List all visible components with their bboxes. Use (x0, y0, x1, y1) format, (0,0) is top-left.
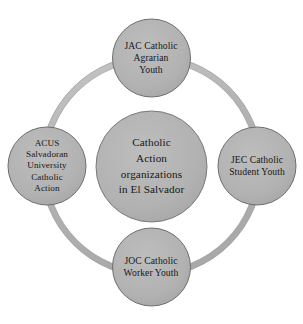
catholic-action-organizations-diagram: Catholic Action organizations in El Salv… (0, 0, 303, 324)
center-circle (96, 111, 207, 222)
node-circle-bottom[interactable] (113, 228, 191, 306)
node-circle-top[interactable] (113, 19, 191, 97)
diagram-canvas (0, 0, 303, 324)
node-circle-left[interactable] (8, 127, 86, 205)
node-circle-right[interactable] (218, 127, 296, 205)
